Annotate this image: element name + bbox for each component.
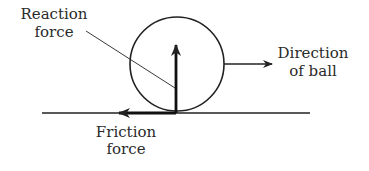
reaction-leader-line	[86, 31, 175, 88]
reaction-label-line1: Reaction	[20, 5, 87, 23]
reaction-label-line2: force	[34, 23, 73, 41]
force-diagram: Reaction force Direction of ball Frictio…	[0, 0, 369, 171]
direction-label-line2: of ball	[289, 62, 337, 80]
friction-label-line1: Friction	[96, 123, 157, 141]
direction-label-line1: Direction	[278, 44, 349, 62]
friction-label-line2: force	[106, 140, 145, 158]
